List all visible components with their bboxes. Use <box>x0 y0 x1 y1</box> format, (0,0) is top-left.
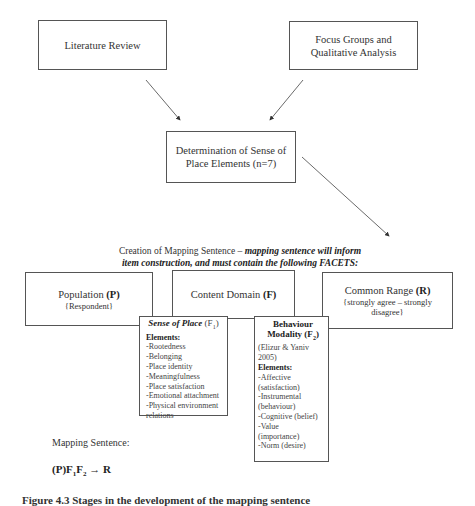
population-box: Population (P) {Respondent} <box>25 272 153 326</box>
content-domain-title: Content Domain <box>191 289 263 300</box>
population-symbol: (P) <box>106 289 119 300</box>
sense-element: -Place satisfaction <box>146 382 227 392</box>
sense-element: -Emotional attachment <box>146 391 227 401</box>
sense-title: Sense of Place <box>148 318 204 328</box>
behaviour-title-1: Behaviour <box>273 319 313 329</box>
sense-element: -Physical environment <box>146 401 227 411</box>
arrow-determination-to-range <box>302 157 389 236</box>
determination-box: Determination of Sense of Place Elements… <box>166 131 296 183</box>
sense-symbol: (F <box>205 318 213 328</box>
focus-groups-line2: Qualitative Analysis <box>311 46 396 59</box>
formula-p: (P)F <box>52 463 73 475</box>
behaviour-element: -Instrumental <box>258 392 328 402</box>
formula-f2: F <box>76 463 83 475</box>
population-sub: {Respondent} <box>65 301 113 311</box>
behaviour-title-2: Modality (F <box>267 329 313 339</box>
behaviour-citation-2: 2005) <box>258 353 328 363</box>
mapping-sentence-label: Mapping Sentence: <box>52 437 129 448</box>
common-range-box: Common Range (R) {strongly agree – stron… <box>322 272 453 329</box>
sense-of-place-box: Sense of Place (F1) Elements: -Rootednes… <box>139 316 228 416</box>
sense-element: -Belonging <box>146 352 227 362</box>
figure-caption: Figure 4.3 Stages in the development of … <box>22 494 310 506</box>
sense-element: relations <box>146 411 227 421</box>
common-range-title: Common Range <box>345 285 416 296</box>
arrow-literature-to-determination <box>146 80 180 120</box>
behaviour-element: (satisfaction) <box>258 383 328 393</box>
behaviour-elements-label: Elements: <box>258 363 292 372</box>
mapping-sentence-formula: (P)F1F2 → R <box>52 463 111 478</box>
formula-arrow: → R <box>87 463 111 475</box>
focus-groups-line1: Focus Groups and <box>315 33 391 46</box>
behaviour-element: (importance) <box>258 432 328 442</box>
behaviour-element: -Norm (desire) <box>258 441 328 451</box>
content-domain-box: Content Domain (F) <box>172 270 295 319</box>
determination-line1: Determination of Sense of <box>176 144 287 157</box>
sense-elements-label: Elements: <box>146 333 180 342</box>
sense-element: -Place identity <box>146 362 227 372</box>
creation-of-mapping-sentence: Creation of Mapping Sentence – mapping s… <box>100 245 380 269</box>
common-range-symbol: (R) <box>416 285 431 296</box>
behaviour-modality-box: Behaviour Modality (F2) (Elizur & Yaniv … <box>254 316 329 462</box>
behaviour-element: -Cognitive (belief) <box>258 412 328 422</box>
creation-emph-1: mapping sentence will inform <box>245 246 361 256</box>
literature-review-box: Literature Review <box>38 20 167 70</box>
behaviour-close: ) <box>316 329 319 339</box>
common-range-sub1: {strongly agree – strongly <box>343 297 432 307</box>
behaviour-element: -Value <box>258 422 328 432</box>
sense-element: -Rootedness <box>146 342 227 352</box>
literature-review-label: Literature Review <box>64 39 140 52</box>
arrow-focus-to-determination <box>270 80 303 120</box>
content-domain-symbol: (F) <box>263 289 276 300</box>
creation-plain: Creation of Mapping Sentence – <box>119 246 245 256</box>
focus-groups-box: Focus Groups and Qualitative Analysis <box>289 21 418 70</box>
population-title: Population <box>58 289 106 300</box>
sense-close: ) <box>216 318 219 328</box>
behaviour-element: (behaviour) <box>258 402 328 412</box>
sense-element: -Meaningfulness <box>146 372 227 382</box>
behaviour-element: -Affective <box>258 373 328 383</box>
common-range-sub2: disagree} <box>371 307 403 317</box>
behaviour-citation-1: (Elizur & Yaniv <box>258 343 328 353</box>
determination-line2: Place Elements (n=7) <box>186 157 276 170</box>
creation-emph-2: item construction, and must contain the … <box>122 258 358 268</box>
